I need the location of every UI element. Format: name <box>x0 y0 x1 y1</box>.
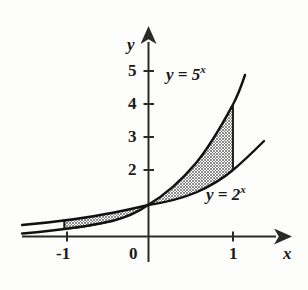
plot-canvas <box>0 0 308 290</box>
y-tick-label-2: 2 <box>128 161 137 178</box>
curve-label-5x: y = 5x <box>166 66 206 83</box>
y-tick-label-4: 4 <box>128 95 137 112</box>
x-tick-label-minus1: -1 <box>56 245 70 262</box>
y-tick-label-5: 5 <box>128 62 137 79</box>
x-axis-label: x <box>283 245 292 262</box>
exponential-functions-figure: y x 5 4 3 2 -1 0 1 y = 5x y = 2x <box>0 0 308 290</box>
curve-label-5x-exponent: x <box>200 63 206 75</box>
y-axis-label: y <box>127 36 135 53</box>
curve-label-5x-text: y = 5 <box>166 65 200 84</box>
curve-label-2x: y = 2x <box>206 186 246 203</box>
x-tick-label-1: 1 <box>229 245 238 262</box>
curve-label-2x-text: y = 2 <box>206 185 240 204</box>
curve-label-2x-exponent: x <box>240 183 246 195</box>
origin-label: 0 <box>129 245 138 262</box>
y-tick-label-3: 3 <box>128 128 137 145</box>
